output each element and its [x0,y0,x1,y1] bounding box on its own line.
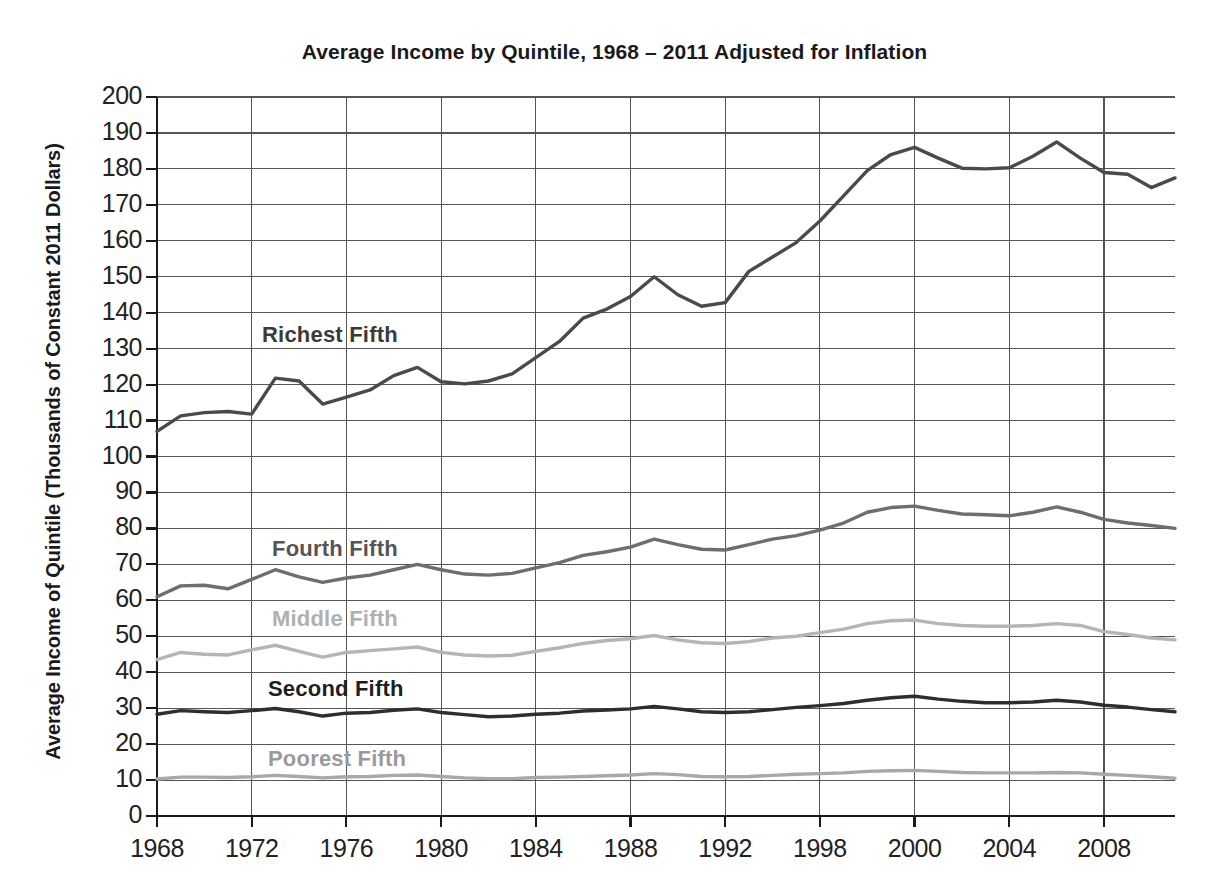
y-tick-label: 170 [62,189,142,218]
y-tick-label: 0 [62,800,142,829]
series-label-second-fifth: Second Fifth [268,676,404,702]
y-tick-label: 110 [62,405,142,434]
line-chart-plot [0,0,1229,889]
y-tick-label: 160 [62,225,142,254]
y-tick-label: 140 [62,297,142,326]
y-tick-label: 50 [62,620,142,649]
y-tick-label: 120 [62,369,142,398]
chart-page: Average Income by Quintile, 1968 – 2011 … [0,0,1229,889]
y-tick-label: 150 [62,261,142,290]
y-tick-label: 30 [62,692,142,721]
series-label-fourth-fifth: Fourth Fifth [272,536,398,562]
y-tick-label: 20 [62,728,142,757]
y-tick-marks [146,97,157,816]
x-tick-marks [157,816,1104,827]
series-label-poorest-fifth: Poorest Fifth [268,746,406,772]
y-tick-label: 40 [62,656,142,685]
y-tick-label: 70 [62,548,142,577]
y-tick-label: 100 [62,441,142,470]
series-label-middle-fifth: Middle Fifth [272,606,398,632]
y-tick-label: 190 [62,117,142,146]
y-tick-label: 90 [62,476,142,505]
series-label-richest-fifth: Richest Fifth [262,322,398,348]
y-tick-label: 80 [62,512,142,541]
y-tick-label: 130 [62,333,142,362]
x-tick-label: 2008 [1044,834,1164,863]
y-tick-label: 200 [62,81,142,110]
y-tick-label: 180 [62,153,142,182]
y-tick-label: 10 [62,764,142,793]
y-tick-label: 60 [62,584,142,613]
